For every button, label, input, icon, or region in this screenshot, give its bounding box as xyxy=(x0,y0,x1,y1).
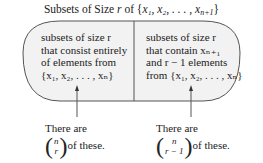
right-line: and r − 1 elements xyxy=(146,56,243,69)
left-count-note: There are ( nr ) of these. xyxy=(45,122,105,158)
binom-top: n xyxy=(54,136,59,146)
binom-top: n xyxy=(172,136,177,146)
right-binomial: ( nr − 1 ) xyxy=(156,134,193,158)
left-line: of elements from xyxy=(41,56,127,69)
right-note-suffix: of these. xyxy=(193,139,230,151)
left-note-text: There are xyxy=(45,122,105,134)
right-line: from {x₁, x₂, . . . , xₙ} xyxy=(146,69,243,82)
left-subset-description: subsets of size r that consist entirely … xyxy=(41,31,127,81)
binom-bottom: r − 1 xyxy=(165,146,184,156)
left-line: {x₁, x₂, . . . , xₙ} xyxy=(41,69,127,82)
right-count-note: There are ( nr − 1 ) of these. xyxy=(156,122,230,158)
left-line: subsets of size r xyxy=(41,31,127,44)
right-line: subsets of size r xyxy=(146,31,243,44)
right-line: that contain xₙ₊₁ xyxy=(146,44,243,57)
left-line: that consist entirely xyxy=(41,44,127,57)
binom-bottom: r xyxy=(54,146,58,156)
right-subset-description: subsets of size r that contain xₙ₊₁ and … xyxy=(146,31,243,81)
right-note-text: There are xyxy=(156,122,230,134)
left-note-suffix: of these. xyxy=(68,139,105,151)
left-binomial: ( nr ) xyxy=(45,134,68,158)
